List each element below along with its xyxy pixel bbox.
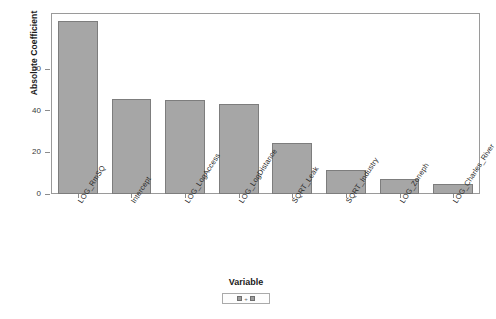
y-tick-mark [45, 69, 50, 70]
legend-swatch-icon [237, 296, 242, 301]
y-tick-mark [45, 152, 50, 153]
y-tick-label: 60 [0, 64, 41, 73]
bar[interactable] [58, 21, 98, 194]
y-tick-label: 20 [0, 147, 41, 156]
x-axis-title: Variable [0, 277, 492, 287]
legend-key-box[interactable]: + [222, 293, 270, 304]
legend-separator: + [244, 296, 248, 302]
y-tick-label: 40 [0, 106, 41, 115]
y-tick-label: 0 [0, 189, 41, 198]
legend-swatch-icon [250, 296, 255, 301]
y-tick-mark [45, 110, 50, 111]
y-tick-mark [45, 194, 50, 195]
